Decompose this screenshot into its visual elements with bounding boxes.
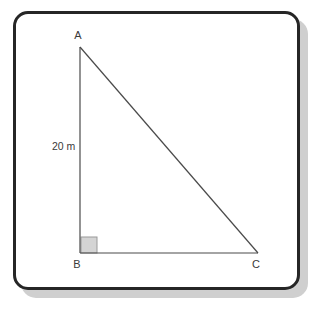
side-length-label-ab: 20 m <box>52 140 76 152</box>
vertex-label-a: A <box>74 29 82 41</box>
right-angle-marker <box>81 237 97 253</box>
right-triangle-diagram: A B C 20 m <box>0 0 325 309</box>
side-ac-hypotenuse <box>80 47 258 253</box>
vertex-label-c: C <box>252 258 260 270</box>
vertex-label-b: B <box>73 258 80 270</box>
diagram-canvas: A B C 20 m <box>0 0 325 309</box>
